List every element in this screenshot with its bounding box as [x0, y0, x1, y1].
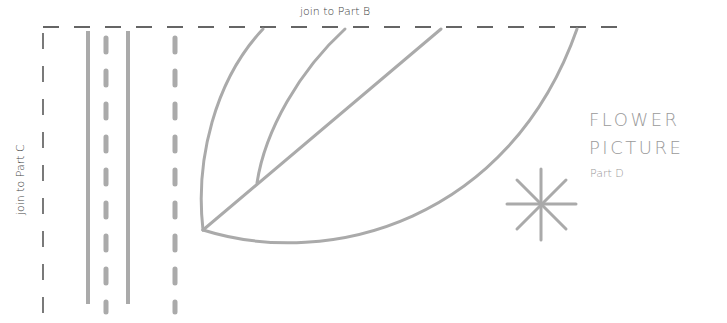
leaf-icon — [201, 29, 577, 243]
title-line-2: PICTURE — [589, 137, 683, 158]
part-subtitle: Part D — [590, 167, 624, 180]
pattern-diagram — [0, 0, 727, 323]
join-to-part-b-label: join to Part B — [300, 5, 370, 18]
join-to-part-c-label: join to Part C — [14, 144, 27, 215]
asterisk-star-icon — [507, 169, 576, 240]
title-line-1: FLOWER — [589, 109, 680, 130]
